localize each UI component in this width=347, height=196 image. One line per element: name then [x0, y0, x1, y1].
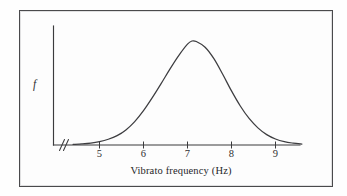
x-tick-label-7: 7 — [178, 148, 198, 159]
figure-page: 5 6 7 8 9 f Vibrato frequency (Hz) — [0, 0, 347, 196]
x-tick-label-5: 5 — [90, 148, 110, 159]
x-tick-label-9: 9 — [266, 148, 286, 159]
density-curve — [73, 41, 302, 145]
x-tick-label-6: 6 — [134, 148, 154, 159]
x-tick-label-8: 8 — [222, 148, 242, 159]
x-axis-title: Vibrato frequency (Hz) — [106, 165, 256, 176]
y-axis-label: f — [33, 78, 36, 90]
